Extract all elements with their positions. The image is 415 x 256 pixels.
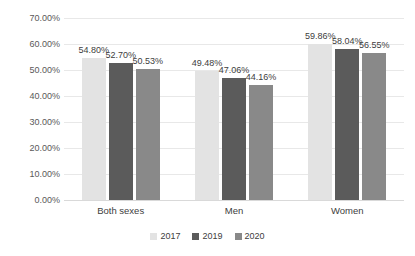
legend-label: 2020: [245, 232, 265, 241]
y-axis-tick-label: 50.00%: [2, 66, 60, 75]
bar[interactable]: [195, 71, 219, 200]
bar-value-label: 44.16%: [243, 73, 279, 82]
bar[interactable]: [249, 85, 273, 200]
bar-group: 49.48%47.06%44.16%: [177, 18, 290, 200]
legend-item[interactable]: 2017: [150, 232, 180, 241]
y-axis: 0.00%10.00%20.00%30.00%40.00%50.00%60.00…: [0, 18, 60, 200]
bar[interactable]: [109, 63, 133, 200]
x-axis-category-label: Men: [177, 206, 290, 216]
legend-swatch-icon: [192, 233, 199, 240]
legend-label: 2019: [202, 232, 222, 241]
legend-label: 2017: [160, 232, 180, 241]
bar[interactable]: [222, 78, 246, 200]
legend-swatch-icon: [235, 233, 242, 240]
bar-group: 59.86%58.04%56.55%: [291, 18, 404, 200]
bar-value-label: 56.55%: [356, 41, 392, 50]
bar[interactable]: [136, 69, 160, 200]
y-axis-tick-label: 10.00%: [2, 170, 60, 179]
axis-baseline: [64, 200, 404, 201]
plot-area: 54.80%52.70%50.53%49.48%47.06%44.16%59.8…: [64, 18, 404, 200]
legend-item[interactable]: 2019: [192, 232, 222, 241]
y-axis-tick-label: 40.00%: [2, 92, 60, 101]
y-axis-tick-label: 30.00%: [2, 118, 60, 127]
bar-chart: 0.00%10.00%20.00%30.00%40.00%50.00%60.00…: [0, 0, 415, 256]
y-axis-tick-label: 20.00%: [2, 144, 60, 153]
bar[interactable]: [335, 49, 359, 200]
y-axis-tick-label: 60.00%: [2, 40, 60, 49]
bar-value-label: 50.53%: [130, 57, 166, 66]
x-axis-category-label: Both sexes: [64, 206, 177, 216]
bar-group: 54.80%52.70%50.53%: [64, 18, 177, 200]
x-axis-category-label: Women: [291, 206, 404, 216]
bar[interactable]: [82, 58, 106, 200]
y-axis-tick-label: 0.00%: [2, 196, 60, 205]
y-axis-tick-label: 70.00%: [2, 14, 60, 23]
bar[interactable]: [308, 44, 332, 200]
bar[interactable]: [362, 53, 386, 200]
chart-legend: 201720192020: [0, 232, 415, 241]
legend-item[interactable]: 2020: [235, 232, 265, 241]
legend-swatch-icon: [150, 233, 157, 240]
